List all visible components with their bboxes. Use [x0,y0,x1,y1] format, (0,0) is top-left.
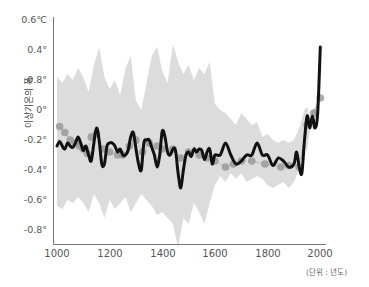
uncertainty-band [57,44,320,248]
x-tick-label: 2000 [307,248,332,259]
x-tick-label: 1800 [255,248,280,259]
x-tick-label: 1400 [150,248,175,259]
x-tick-label: 1000 [44,248,69,259]
y-tick-label: 0.6℃ [21,14,47,25]
x-tick-label: 1200 [97,248,122,259]
proxy-sample-dot [56,123,64,131]
y-tick-label: -0.6° [24,194,47,205]
proxy-sample-dot [261,160,269,168]
temperature-anomaly-chart [0,0,369,287]
y-axis-label: 이상기온의 폭 [22,77,35,128]
y-tick-label: -0.8° [24,224,47,235]
proxy-sample-dot [61,129,69,137]
x-tick-label: 1600 [202,248,227,259]
proxy-sample-dot [248,157,256,165]
proxy-sample-dot [222,163,230,171]
proxy-sample-dot [277,163,285,171]
x-axis-unit-note: (단위 : 년도) [306,266,347,277]
y-tick-label: -0.4° [24,164,47,175]
y-tick-label: 0.4° [27,44,47,55]
y-tick-label: -0.2° [24,134,47,145]
y-tick-label: 0° [36,104,47,115]
